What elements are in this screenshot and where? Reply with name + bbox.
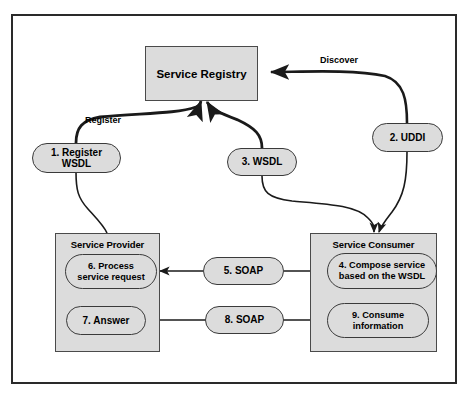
step-4-compose-service[interactable]: 4. Compose service based on the WSDL xyxy=(327,253,437,289)
step-3-wsdl[interactable]: 3. WSDL xyxy=(227,148,297,176)
edge-label-discover: Discover xyxy=(320,55,358,65)
diagram-canvas: Service Registry Discover Register 1. Re… xyxy=(0,0,470,398)
edge-label-register: Register xyxy=(85,115,121,125)
step-1-line-2: WSDL xyxy=(62,158,91,170)
step-1-register-wsdl[interactable]: 1. Register WSDL xyxy=(32,143,121,173)
step-8-label: 8. SOAP xyxy=(225,314,264,326)
step-6-line-2: service request xyxy=(77,272,144,283)
step-2-uddi[interactable]: 2. UDDI xyxy=(372,123,443,152)
service-registry-box[interactable]: Service Registry xyxy=(145,46,258,101)
step-4-line-2: based on the WSDL xyxy=(339,271,425,282)
step-5-label: 5. SOAP xyxy=(224,265,263,277)
service-registry-label: Service Registry xyxy=(156,68,246,80)
service-provider-label: Service Provider xyxy=(56,239,159,250)
service-consumer-label: Service Consumer xyxy=(311,239,436,250)
step-8-soap[interactable]: 8. SOAP xyxy=(205,306,284,334)
step-5-soap[interactable]: 5. SOAP xyxy=(203,257,284,285)
step-1-line-1: 1. Register xyxy=(51,147,102,159)
step-9-line-1: 9. Consume xyxy=(352,310,404,321)
step-2-label: 2. UDDI xyxy=(390,132,426,144)
step-9-consume-information[interactable]: 9. Consume information xyxy=(327,303,429,338)
step-7-answer[interactable]: 7. Answer xyxy=(66,306,146,335)
step-4-line-1: 4. Compose service xyxy=(339,260,425,271)
step-6-line-1: 6. Process xyxy=(88,261,134,272)
step-6-process-service-request[interactable]: 6. Process service request xyxy=(65,254,157,289)
step-3-label: 3. WSDL xyxy=(242,156,283,168)
step-7-label: 7. Answer xyxy=(83,315,130,327)
step-9-line-2: information xyxy=(353,321,404,332)
